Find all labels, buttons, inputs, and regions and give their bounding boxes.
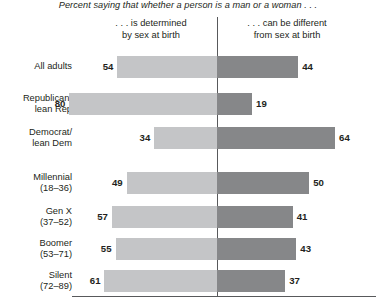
- row-category-label-line: Gen X: [0, 206, 72, 217]
- row-category-label-line: (72–89): [0, 281, 72, 292]
- chart-row: Gen X(37–52)5741: [0, 206, 376, 228]
- bar-value-label-left: 61: [90, 276, 101, 286]
- bar-value-label-left: 57: [97, 212, 108, 222]
- row-category-label-line: All adults: [0, 61, 72, 72]
- bar-value-label-right: 41: [297, 212, 308, 222]
- row-category-label-line: Millennial: [0, 172, 72, 183]
- row-category-label: Millennial(18–36): [0, 172, 72, 195]
- chart-row: Silent(72–89)6137: [0, 270, 376, 292]
- chart-row: Democrat/lean Dem3464: [0, 127, 376, 149]
- chart-row: Millennial(18–36)4950: [0, 172, 376, 194]
- bar-segment-determined-by-sex-at-birth: [154, 127, 217, 149]
- bar-segment-determined-by-sex-at-birth: [104, 270, 217, 292]
- bar-segment-can-be-different-from-sex-at-birth: [217, 172, 309, 194]
- bar-segment-determined-by-sex-at-birth: [116, 238, 217, 260]
- bar-value-label-right: 44: [302, 62, 313, 72]
- bar-segment-determined-by-sex-at-birth: [69, 93, 217, 115]
- row-category-label-line: Boomer: [0, 238, 72, 249]
- row-category-label-line: Democrat/: [0, 127, 72, 138]
- diverging-bar-chart: Percent saying that whether a person is …: [0, 0, 376, 308]
- bar-value-label-left: 34: [140, 133, 151, 143]
- bar-segment-determined-by-sex-at-birth: [117, 56, 217, 78]
- bar-value-label-right: 43: [300, 244, 311, 254]
- plot-area: All adults5444Republican/lean Rep8019Dem…: [0, 0, 376, 308]
- bar-segment-can-be-different-from-sex-at-birth: [217, 93, 252, 115]
- chart-row: All adults5444: [0, 56, 376, 78]
- bar-segment-can-be-different-from-sex-at-birth: [217, 127, 335, 149]
- row-category-label: Democrat/lean Dem: [0, 127, 72, 150]
- bar-segment-determined-by-sex-at-birth: [112, 206, 217, 228]
- row-category-label-line: lean Dem: [0, 138, 72, 149]
- chart-row: Republican/lean Rep8019: [0, 93, 376, 115]
- row-category-label: All adults: [0, 61, 72, 72]
- row-category-label-line: Silent: [0, 270, 72, 281]
- bar-value-label-right: 64: [339, 133, 350, 143]
- bar-value-label-left: 80: [55, 99, 66, 109]
- row-category-label-line: (53–71): [0, 249, 72, 260]
- bar-segment-determined-by-sex-at-birth: [127, 172, 217, 194]
- bar-value-label-left: 54: [103, 62, 114, 72]
- row-category-label-line: (18–36): [0, 183, 72, 194]
- row-category-label: Boomer(53–71): [0, 238, 72, 261]
- bar-segment-can-be-different-from-sex-at-birth: [217, 238, 296, 260]
- bar-value-label-right: 37: [289, 276, 300, 286]
- bar-value-label-left: 49: [112, 178, 123, 188]
- bar-value-label-right: 50: [313, 178, 324, 188]
- row-category-label: Gen X(37–52): [0, 206, 72, 229]
- bar-value-label-left: 55: [101, 244, 112, 254]
- row-category-label-line: (37–52): [0, 217, 72, 228]
- bar-segment-can-be-different-from-sex-at-birth: [217, 206, 293, 228]
- bar-value-label-right: 19: [256, 99, 267, 109]
- row-category-label: Silent(72–89): [0, 270, 72, 293]
- bar-segment-can-be-different-from-sex-at-birth: [217, 270, 285, 292]
- bar-segment-can-be-different-from-sex-at-birth: [217, 56, 298, 78]
- chart-row: Boomer(53–71)5543: [0, 238, 376, 260]
